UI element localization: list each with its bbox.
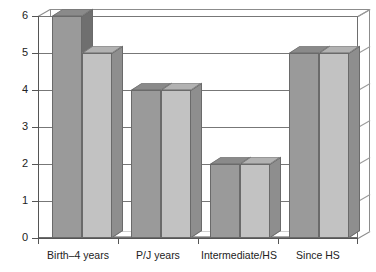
- y-tick-label-3: 3: [6, 121, 28, 132]
- bar-front-face: [289, 53, 319, 238]
- bar-group-3-series-1: [210, 164, 240, 238]
- bar-group-4-series-1: [289, 53, 319, 238]
- bar-front-face: [319, 53, 349, 238]
- y-tick-2: [32, 164, 38, 165]
- bar-side-face: [191, 83, 202, 238]
- y-tick-label-4: 4: [6, 84, 28, 95]
- x-axis-label-pj-years: P/J years: [118, 249, 198, 261]
- x-tick-0: [38, 239, 39, 244]
- y-tick-6: [32, 16, 38, 17]
- bar-group-3-series-2: [240, 164, 270, 238]
- bar-side-face: [270, 157, 281, 238]
- x-tick-4: [357, 239, 358, 244]
- x-axis-label-birth-4-years: Birth–4 years: [38, 249, 118, 261]
- depth-connector-bottom-right: [358, 231, 371, 239]
- y-tick-3: [32, 127, 38, 128]
- bar-chart: 6 5 4 3 2 1 0 Birth–4 years P/J years In…: [0, 0, 376, 272]
- y-tick-label-1: 1: [6, 195, 28, 206]
- bar-front-face: [131, 90, 161, 238]
- y-tick-4: [32, 90, 38, 91]
- y-tick-label-6: 6: [6, 10, 28, 21]
- x-axis-label-since-hs: Since HS: [278, 249, 358, 261]
- bar-side-face: [349, 46, 360, 238]
- bar-front-face: [161, 90, 191, 238]
- y-tick-1: [32, 201, 38, 202]
- bar-front-face: [82, 53, 112, 238]
- bar-group-2-series-1: [131, 90, 161, 238]
- bar-group-2-series-2: [161, 90, 191, 238]
- bar-front-face: [210, 164, 240, 238]
- y-tick-5: [32, 53, 38, 54]
- bar-side-face: [112, 46, 123, 238]
- x-tick-3: [278, 239, 279, 244]
- bar-front-face: [240, 164, 270, 238]
- y-tick-label-0: 0: [6, 232, 28, 243]
- bar-front-face: [52, 16, 82, 238]
- bar-group-1-series-1: [52, 16, 82, 238]
- bar-group-4-series-2: [319, 53, 349, 238]
- bar-group-1-series-2: [82, 53, 112, 238]
- y-axis-line: [38, 16, 39, 238]
- x-axis-label-intermediate-hs: Intermediate/HS: [196, 249, 282, 261]
- x-tick-1: [118, 239, 119, 244]
- y-tick-label-5: 5: [6, 47, 28, 58]
- y-tick-label-2: 2: [6, 158, 28, 169]
- x-tick-2: [198, 239, 199, 244]
